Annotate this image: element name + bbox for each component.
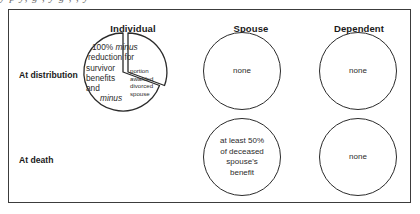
row-label-at-death: At death (19, 155, 99, 165)
exploded-pie-chart-individual-at-distribution: 100% minus reduction for survivor benefi… (85, 31, 169, 113)
circle-dependent-at-distribution: none (319, 32, 397, 110)
circle-dependent-at-distribution-text: none (343, 66, 373, 77)
figure-frame: Individual Spouse Dependent At distribut… (8, 9, 411, 203)
circle-spouse-at-death-text: at least 50% of deceased spouse's benefi… (214, 136, 270, 178)
pie-exploded-slice-label: portion awarded divorced spouse (130, 67, 166, 97)
pie-label-line-1: 100% (92, 42, 116, 52)
cropped-text-above-figure: y p y, g , y g , , y (0, 0, 420, 3)
circle-spouse-at-distribution: none (203, 32, 281, 110)
pie-wedge-label-line-4: spouse (130, 90, 166, 98)
pie-label-line-3: reduction for (86, 52, 140, 62)
pie-label-line-2: minus (116, 42, 138, 52)
circle-dependent-at-death-text: none (343, 152, 373, 163)
circle-dependent-at-death: none (319, 118, 397, 196)
pie-wedge-label-line-1: portion (130, 67, 166, 75)
pie-wedge-label-line-2: awarded (130, 75, 166, 83)
pie-wedge-label-line-3: divorced (130, 82, 166, 90)
circle-spouse-at-distribution-text: none (227, 66, 257, 77)
circle-spouse-at-death: at least 50% of deceased spouse's benefi… (203, 118, 281, 196)
